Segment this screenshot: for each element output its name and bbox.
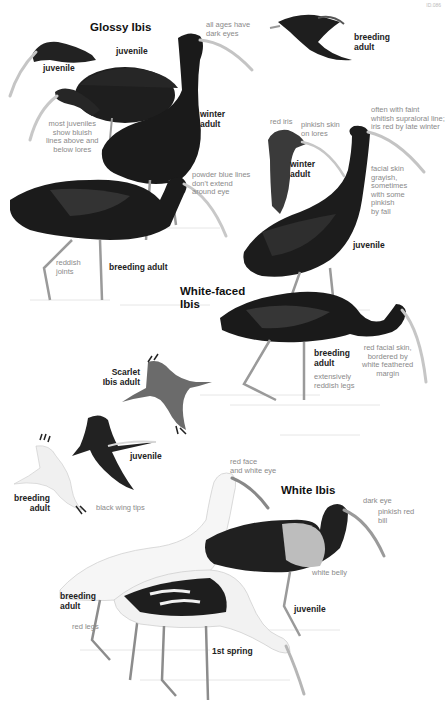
- white-faced-ibis-title: White-faced Ibis: [180, 285, 245, 311]
- white-ibis-red-legs-note: red legs: [72, 623, 99, 632]
- white-faced-winter-adult-label: winter adult: [290, 159, 315, 179]
- white-faced-red-facial-note: red facial skin, bordered by white feath…: [362, 344, 413, 378]
- white-faced-pinkish-lores-note: pinkish skin on lores: [301, 121, 340, 138]
- glossy-dark-eyes-note: all ages have dark eyes: [206, 21, 250, 38]
- glossy-breeding-adult-flight-illustration: [270, 15, 352, 60]
- white-ibis-dark-eye-note: dark eye: [363, 497, 392, 506]
- glossy-breeding-adult-flight-label: breeding adult: [354, 32, 390, 52]
- glossy-juvenile-label: juvenile: [116, 46, 148, 56]
- white-ibis-juvenile-label: juvenile: [294, 604, 326, 614]
- glossy-bluish-lines-note: most juveniles show bluish lines above a…: [46, 120, 99, 154]
- glossy-reddish-joints-note: reddish joints: [56, 259, 81, 276]
- white-faced-red-iris-note: red iris: [270, 118, 293, 127]
- white-ibis-breeding-adult-flight-label: breeding adult: [10, 493, 50, 513]
- field-guide-plate: ID.086 Glossy Ibis all ages have dark ey…: [0, 0, 445, 703]
- white-ibis-black-wing-tips-note: black wing tips: [96, 504, 145, 513]
- glossy-juvenile-head-label: juvenile: [43, 63, 75, 73]
- glossy-breeding-adult-label: breeding adult: [109, 262, 168, 272]
- page-number: ID.086: [426, 2, 441, 8]
- white-ibis-title: White Ibis: [281, 484, 335, 497]
- scarlet-ibis-adult-illustration: [122, 354, 212, 434]
- white-ibis-breeding-adult-label: breeding adult: [60, 591, 96, 611]
- white-ibis-red-face-note: red face and white eye: [230, 458, 276, 475]
- glossy-ibis-title: Glossy Ibis: [90, 21, 151, 34]
- white-ibis-pinkish-bill-note: pinkish red bill: [378, 508, 414, 525]
- white-faced-facial-skin-note: facial skin grayish, sometimes with some…: [371, 165, 407, 217]
- white-faced-breeding-adult-label: breeding adult: [314, 348, 350, 368]
- white-faced-supraloral-note: often with faint whitish supraloral line…: [371, 106, 445, 132]
- white-ibis-first-spring-label: 1st spring: [212, 646, 253, 656]
- white-faced-reddish-legs-note: extensively reddish legs: [314, 373, 354, 390]
- white-faced-juvenile-label: juvenile: [353, 240, 385, 250]
- glossy-winter-adult-label: winter adult: [200, 109, 225, 129]
- white-ibis-white-belly-note: white belly: [312, 569, 347, 578]
- glossy-powder-blue-note: powder blue lines don't extend around ey…: [192, 171, 250, 197]
- white-ibis-juvenile-flight-label: juvenile: [130, 451, 162, 461]
- scarlet-ibis-label: Scarlet Ibis adult: [98, 367, 140, 387]
